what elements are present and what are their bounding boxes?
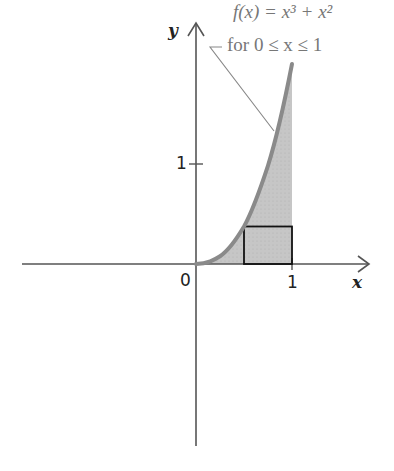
x-axis-label: x	[352, 272, 362, 292]
x-tick-label-1: 1	[287, 272, 298, 292]
y-tick-label-1: 1	[176, 153, 187, 173]
origin-label: 0	[180, 270, 191, 290]
y-axis-label: y	[168, 20, 178, 40]
domain-label: for 0 ≤ x ≤ 1	[227, 34, 322, 56]
function-label: f(x) = x³ + x²	[233, 1, 332, 23]
annotation-leader-line	[210, 47, 274, 131]
diagram-canvas	[0, 0, 394, 471]
